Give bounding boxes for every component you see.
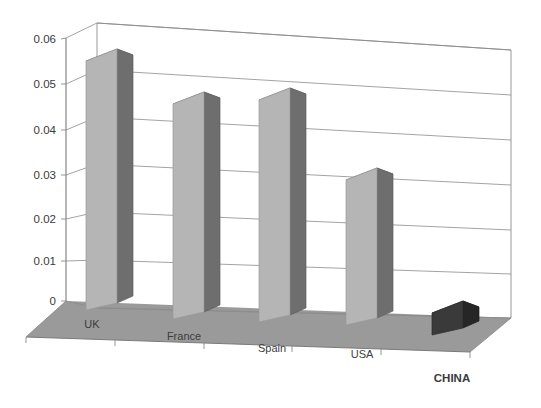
y-axis-ticks	[61, 38, 66, 301]
bar-usa[interactable]	[346, 168, 393, 325]
cat-label-china: CHINA	[434, 372, 470, 384]
bar-uk-front	[86, 49, 117, 310]
y-tick-label-6: 0	[50, 295, 56, 307]
ytick-0-06	[61, 38, 66, 39]
bar-usa-side	[377, 168, 393, 318]
bar-spain-front	[259, 88, 290, 322]
bar-france-front	[173, 92, 204, 319]
bar-france-side	[204, 92, 220, 312]
y-tick-label-1: 0.05	[34, 78, 56, 90]
chart-svg: 0.06 0.05 0.04 0.03 0.02 0.01 0	[0, 0, 541, 408]
bar-usa-front	[346, 168, 377, 325]
y-tick-label-5: 0.01	[34, 255, 56, 267]
bar-spain-side	[290, 88, 306, 315]
bar-uk[interactable]	[86, 49, 133, 310]
bar-uk-side	[117, 49, 133, 303]
cat-label-uk: UK	[84, 318, 100, 330]
cat-label-usa: USA	[351, 348, 374, 360]
bar-spain[interactable]	[259, 88, 306, 322]
bar-france[interactable]	[173, 92, 220, 319]
y-tick-label-0: 0.06	[34, 33, 56, 45]
y-tick-label-2: 0.04	[34, 124, 57, 136]
y-axis-tick-labels: 0.06 0.05 0.04 0.03 0.02 0.01 0	[34, 33, 57, 307]
cat-label-france: France	[167, 330, 201, 342]
bar-chart-3d: 0.06 0.05 0.04 0.03 0.02 0.01 0	[0, 0, 541, 408]
y-tick-label-3: 0.03	[34, 169, 56, 181]
cat-label-spain: Spain	[258, 342, 286, 354]
y-tick-label-4: 0.02	[34, 213, 56, 225]
